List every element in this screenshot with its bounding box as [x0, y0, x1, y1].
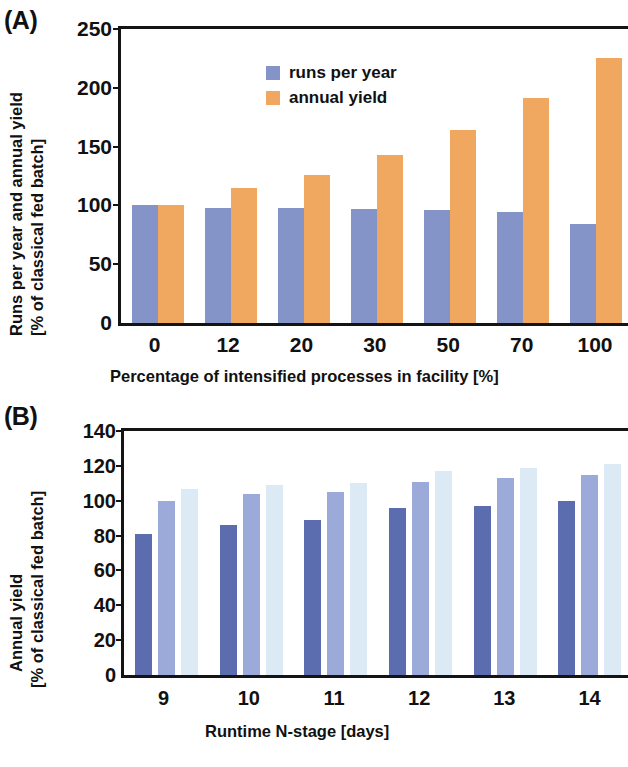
panel-b-bar: [135, 534, 152, 675]
panel-b-bar: [304, 520, 321, 675]
panel-b-bar: [158, 501, 175, 675]
panel-b-y-tick-mark: [116, 430, 124, 432]
panel-a-legend: runs per yearannual yield: [266, 63, 397, 108]
panel-a-y-tick-mark: [113, 263, 121, 265]
panel-a-plot-area: runs per yearannual yield 25020015010050…: [118, 26, 628, 326]
panel-b-y-tick-mark: [116, 465, 124, 467]
panel-b-y-tick-mark: [116, 535, 124, 537]
panel-a-bar: [132, 205, 158, 323]
panel-a-y-tick-mark: [113, 204, 121, 206]
panel-a-x-tick-label: 30: [338, 333, 411, 357]
panel-b-bar: [520, 468, 537, 675]
panel-b-bar-groups: [124, 431, 628, 675]
panel-b-bar-group: [547, 431, 628, 675]
panel-b-x-axis-title: Runtime N-stage [days]: [205, 722, 389, 741]
panel-a-bar: [377, 155, 403, 323]
panel-a-bar: [304, 175, 330, 323]
panel-a-legend-item: runs per year: [266, 63, 397, 83]
panel-b-plot-area: STD DSP-12h DSP-24h DSP 1401201008060402…: [121, 428, 628, 678]
panel-a-legend-label: annual yield: [289, 88, 387, 108]
panel-a-bar-group: [486, 29, 559, 323]
panel-a-x-axis-title: Percentage of intensified processes in f…: [110, 367, 499, 386]
panel-b-x-tick-label: 11: [291, 687, 376, 710]
legend-swatch-icon: [266, 91, 280, 105]
panel-a-bar: [497, 212, 523, 323]
panel-b-x-tick-labels: 91011121314: [121, 687, 628, 710]
panel-b-y-tick-mark: [116, 500, 124, 502]
panel-b-bar-group: [124, 431, 209, 675]
panel-a-legend-label: runs per year: [289, 63, 397, 83]
panel-b-x-tick-label: 10: [206, 687, 291, 710]
panel-a-legend-item: annual yield: [266, 88, 397, 108]
panel-a-bar: [205, 208, 231, 323]
panel-a-bar: [450, 130, 476, 323]
panel-b-bar: [474, 506, 491, 675]
panel-b-y-tick-label: 0: [105, 664, 124, 687]
panel-b-x-tick-label: 14: [547, 687, 628, 710]
panel-a-bar-group: [559, 29, 628, 323]
panel-b-bar: [497, 478, 514, 675]
legend-swatch-icon: [266, 66, 280, 80]
panel-b-bar-group: [209, 431, 294, 675]
panel-a-y-axis-title-line1: Runs per year and annual yield: [8, 92, 25, 336]
panel-b-y-axis-title-line1: Annual yield: [8, 574, 25, 672]
panel-a-y-tick-label: 0: [100, 311, 121, 335]
panel-a-y-axis-title-line2: [% of classical fed batch]: [29, 139, 46, 336]
panel-b-bar: [412, 482, 429, 675]
panel-a-bar: [570, 224, 596, 323]
panel-a-y-tick-mark: [113, 87, 121, 89]
panel-a-bar-group: [194, 29, 267, 323]
panel-a-x-tick-label: 0: [118, 333, 191, 357]
panel-b-bar: [581, 475, 598, 675]
panel-b-bar-group: [293, 431, 378, 675]
panel-b-y-axis-title-line2: [% of classical fed batch]: [29, 491, 46, 688]
panel-a-x-tick-label: 70: [485, 333, 558, 357]
panel-b-bar-group: [463, 431, 548, 675]
panel-b-x-tick-label: 9: [121, 687, 206, 710]
panel-b-bar: [604, 464, 621, 675]
panel-a-x-tick-label: 100: [558, 333, 628, 357]
panel-a-bar-group: [413, 29, 486, 323]
panel-b-tag: (B): [4, 402, 37, 431]
panel-b-bar: [435, 471, 452, 675]
panel-a-bar-group: [121, 29, 194, 323]
panel-a-x-tick-label: 50: [412, 333, 485, 357]
panel-b-bar: [327, 492, 344, 675]
panel-a-y-tick-mark: [113, 146, 121, 148]
panel-b-y-tick-mark: [116, 639, 124, 641]
panel-a: (A) Runs per year and annual yield [% of…: [0, 0, 628, 398]
panel-b-y-tick-mark: [116, 569, 124, 571]
panel-b-bar: [558, 501, 575, 675]
panel-a-tag: (A): [4, 6, 37, 35]
panel-a-x-tick-label: 20: [265, 333, 338, 357]
panel-a-x-tick-label: 12: [191, 333, 264, 357]
panel-b-bar: [181, 489, 198, 675]
panel-a-bar: [351, 209, 377, 323]
panel-b-bar-group: [378, 431, 463, 675]
panel-b-bar: [243, 494, 260, 675]
panel-b-bar: [220, 525, 237, 675]
panel-b-x-tick-label: 12: [377, 687, 462, 710]
panel-a-bar: [596, 58, 622, 323]
panel-a-x-tick-labels: 01220305070100: [118, 333, 628, 357]
panel-a-bar: [231, 188, 257, 323]
panel-a-bar: [158, 205, 184, 323]
panel-a-bar: [278, 208, 304, 323]
panel-a-bar: [424, 210, 450, 323]
panel-b-bar: [389, 508, 406, 675]
panel-b-bar: [266, 485, 283, 675]
panel-b-bar: [350, 483, 367, 675]
panel-b-x-tick-label: 13: [462, 687, 547, 710]
panel-a-y-tick-mark: [113, 28, 121, 30]
figure-container: (A) Runs per year and annual yield [% of…: [0, 0, 628, 767]
panel-b-y-tick-mark: [116, 604, 124, 606]
panel-a-bar: [523, 98, 549, 323]
